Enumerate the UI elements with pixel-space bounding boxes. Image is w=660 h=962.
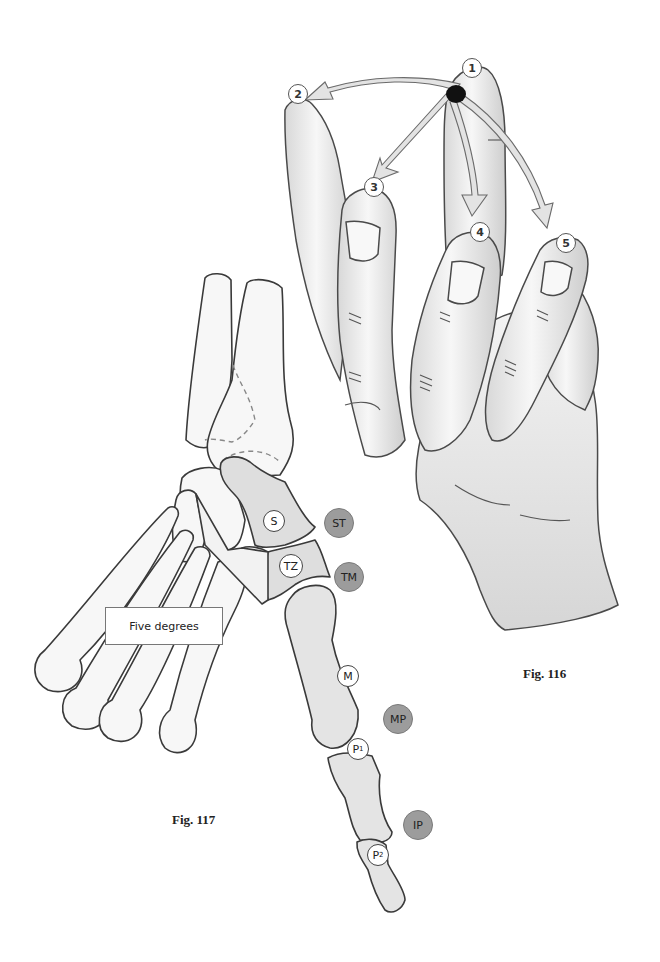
- skeleton-illustration: [0, 0, 660, 962]
- bone-label-distal-phalanx: P2: [367, 844, 389, 866]
- joint-label-st: ST: [324, 508, 354, 538]
- bone-label-scaphoid: S: [263, 510, 285, 532]
- bone-label-p2-sub: 2: [379, 851, 383, 859]
- joint-label-tm: TM: [334, 562, 364, 592]
- five-degrees-callout: Five degrees: [105, 607, 223, 645]
- joint-label-mp: MP: [383, 704, 413, 734]
- bone-proximal-phalanx: [328, 753, 392, 842]
- illustration-page: 1 2 3 4 5 Fig. 116: [0, 0, 660, 962]
- bone-label-p1-main: P: [352, 743, 359, 756]
- bone-label-metacarpal: M: [337, 665, 359, 687]
- bone-label-p1-sub: 1: [359, 745, 363, 753]
- joint-label-ip: IP: [403, 810, 433, 840]
- bone-label-proximal-phalanx: P1: [347, 738, 369, 760]
- bone-label-p2-main: P: [372, 849, 379, 862]
- figure-117-caption: Fig. 117: [172, 812, 215, 828]
- bone-label-trapezium: TZ: [279, 554, 303, 578]
